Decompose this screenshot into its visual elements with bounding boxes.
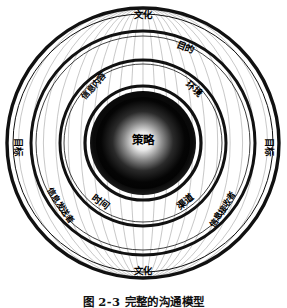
ring-label-goal-right: 目标: [264, 138, 275, 157]
ring-label-goal-left: 目标: [13, 138, 24, 157]
ring-label-culture-top: 文化: [133, 9, 153, 20]
ring-label-culture-bottom: 文化: [133, 265, 153, 276]
figure-caption: 图 2-3 完整的沟通模型: [0, 295, 287, 308]
core-group: 策略: [90, 91, 196, 195]
core-label: 策略: [131, 133, 155, 147]
ring-label-environment: 环境: [184, 78, 205, 99]
